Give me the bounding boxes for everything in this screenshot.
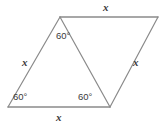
angle-label-bottom-left: 60° (13, 92, 27, 102)
side-label-right: x (133, 57, 139, 68)
side-label-top: x (103, 2, 109, 13)
side-label-bottom: x (56, 112, 62, 123)
geometry-figure: x x x x 60° 60° 60° (0, 0, 167, 128)
side-label-left: x (22, 57, 28, 68)
angle-label-bottom-right: 60° (78, 92, 92, 102)
angle-label-apex: 60° (56, 31, 70, 41)
